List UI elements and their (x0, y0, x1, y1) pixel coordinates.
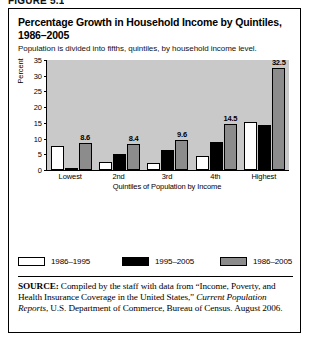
bar-3rd-1995-2005 (161, 150, 174, 170)
legend-label-1986-2005: 1986–2005 (253, 257, 292, 266)
bar-group-lowest: 8.6 (47, 60, 95, 170)
plot-area: 8.68.49.614.532.5 (46, 60, 289, 171)
legend-entry-1986-1995: 1986–1995 (18, 257, 90, 266)
source-line-3: , U.S. Department of Commerce, (46, 303, 164, 313)
bar-group-3rd: 9.6 (144, 60, 192, 170)
x-axis-title: Quintiles of Population by Income (46, 182, 288, 191)
y-axis-tick-10: 10 (34, 135, 42, 142)
legend-swatch-gray (220, 257, 247, 266)
figure-number-caption: FIGURE 5.1 (8, 0, 64, 6)
chart-subtitle: Population is divided into fifths, quint… (18, 44, 291, 54)
bar-3rd-1986-1995 (147, 163, 160, 170)
bar-group-4th: 14.5 (192, 60, 240, 170)
source-line-4: Bureau of Census. August 2006. (167, 303, 283, 313)
y-axis-tick-20: 20 (34, 104, 42, 111)
bar-group-highest: 32.5 (241, 60, 289, 170)
legend-entry-1995-2005: 1995–2005 (122, 257, 194, 266)
x-axis-label-3rd: 3rd (143, 172, 191, 181)
source-label: SOURCE: (18, 281, 59, 291)
legend-label-1995-2005: 1995–2005 (155, 257, 194, 266)
bar-2nd-1986-1995 (99, 162, 112, 170)
bars-layer: 8.68.49.614.532.5 (47, 60, 289, 170)
legend-swatch-white (18, 257, 45, 266)
bar-lowest-1995-2005 (65, 168, 78, 170)
chart-legend: 1986–19951995–20051986–2005 (18, 257, 293, 271)
legend-label-1986-1995: 1986–1995 (51, 257, 90, 266)
y-axis-tick-30: 30 (34, 72, 42, 79)
y-axis-tick-35: 35 (34, 57, 42, 64)
source-line-1: Compiled by the staff with data from “In… (59, 281, 229, 291)
bar-3rd-1986-2005 (175, 140, 188, 170)
bar-2nd-1995-2005 (113, 154, 126, 170)
y-axis-tick-15: 15 (34, 119, 42, 126)
bar-4th-1986-2005 (224, 124, 237, 170)
source-divider (18, 276, 293, 277)
y-axis-tick-5: 5 (38, 151, 42, 158)
bar-lowest-1986-1995 (51, 146, 64, 170)
bar-lowest-1986-2005 (79, 143, 92, 170)
x-axis-label-lowest: Lowest (46, 172, 94, 181)
x-axis-label-highest: Highest (240, 172, 288, 181)
figure-root: FIGURE 5.1 Percentage Growth in Househol… (0, 0, 315, 341)
bar-highest-1986-2005 (272, 68, 285, 170)
figure-panel: Percentage Growth in Household Income by… (8, 8, 301, 333)
bar-highest-1995-2005 (258, 125, 271, 170)
plot-block: Percent 05101520253035 8.68.49.614.532.5… (18, 60, 293, 192)
y-axis-tick-0: 0 (38, 167, 42, 174)
bar-4th-1986-1995 (196, 156, 209, 170)
x-axis-label-2nd: 2nd (94, 172, 142, 181)
bar-4th-1995-2005 (210, 142, 223, 170)
bar-value-label-highest: 32.5 (265, 59, 293, 67)
y-axis-tick-25: 25 (34, 88, 42, 95)
y-axis-tick-labels: 05101520253035 (24, 60, 42, 170)
bar-highest-1986-1995 (244, 122, 257, 170)
source-note: SOURCE: Compiled by the staff with data … (18, 281, 295, 315)
legend-entry-1986-2005: 1986–2005 (220, 257, 292, 266)
bar-2nd-1986-2005 (127, 144, 140, 170)
legend-swatch-black (122, 257, 149, 266)
chart-title: Percentage Growth in Household Income by… (18, 16, 291, 41)
bar-group-2nd: 8.4 (95, 60, 143, 170)
x-axis-label-4th: 4th (191, 172, 239, 181)
